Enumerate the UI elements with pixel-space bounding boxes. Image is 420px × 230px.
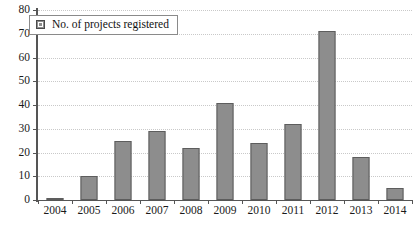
bar-chart: 01020304050607080 2004200520062007200820…: [0, 0, 420, 230]
y-tick-label: 40: [0, 99, 30, 111]
x-tick-label: 2010: [248, 205, 271, 217]
x-tick-label: 2009: [214, 205, 237, 217]
y-tick-label: 70: [0, 28, 30, 40]
bar[interactable]: [285, 124, 302, 200]
x-tick-mark: [38, 200, 39, 204]
bars-layer: [38, 10, 412, 200]
x-tick-mark: [344, 200, 345, 204]
y-tick-label: 60: [0, 52, 30, 64]
bar[interactable]: [387, 188, 404, 200]
bar-slot: [174, 10, 208, 200]
bar-slot: [242, 10, 276, 200]
y-tick-label: 50: [0, 75, 30, 87]
x-tick-mark: [276, 200, 277, 204]
bar-slot: [140, 10, 174, 200]
x-tick-label: 2005: [78, 205, 101, 217]
bar-slot: [72, 10, 106, 200]
y-tick-label: 0: [0, 194, 30, 206]
x-tick-mark: [310, 200, 311, 204]
x-tick-mark: [208, 200, 209, 204]
bar[interactable]: [149, 131, 166, 200]
legend-swatch-icon: [36, 20, 45, 29]
bar[interactable]: [217, 103, 234, 200]
chart-legend: No. of projects registered: [29, 15, 178, 35]
bar-slot: [344, 10, 378, 200]
x-axis-line: [36, 200, 412, 201]
bar[interactable]: [81, 176, 98, 200]
bar[interactable]: [319, 31, 336, 200]
bar-slot: [310, 10, 344, 200]
y-tick-label: 20: [0, 147, 30, 159]
legend-label: No. of projects registered: [52, 19, 169, 31]
bar-slot: [378, 10, 412, 200]
bar-slot: [106, 10, 140, 200]
x-tick-mark: [140, 200, 141, 204]
x-tick-label: 2012: [316, 205, 339, 217]
bar-slot: [38, 10, 72, 200]
bar-slot: [208, 10, 242, 200]
bar[interactable]: [353, 157, 370, 200]
x-tick-mark: [72, 200, 73, 204]
x-tick-mark: [242, 200, 243, 204]
x-tick-label: 2007: [146, 205, 169, 217]
x-tick-mark: [412, 200, 413, 204]
x-tick-mark: [378, 200, 379, 204]
x-tick-label: 2004: [44, 205, 67, 217]
x-tick-label: 2006: [112, 205, 135, 217]
x-tick-label: 2008: [180, 205, 203, 217]
bar[interactable]: [183, 148, 200, 200]
y-tick-label: 80: [0, 4, 30, 16]
x-tick-label: 2011: [282, 205, 305, 217]
x-tick-mark: [106, 200, 107, 204]
bar[interactable]: [115, 141, 132, 200]
bar[interactable]: [47, 198, 64, 200]
bar[interactable]: [251, 143, 268, 200]
x-tick-label: 2013: [350, 205, 373, 217]
y-tick-label: 10: [0, 170, 30, 182]
y-tick-label: 30: [0, 123, 30, 135]
x-tick-mark: [174, 200, 175, 204]
x-tick-label: 2014: [384, 205, 407, 217]
bar-slot: [276, 10, 310, 200]
